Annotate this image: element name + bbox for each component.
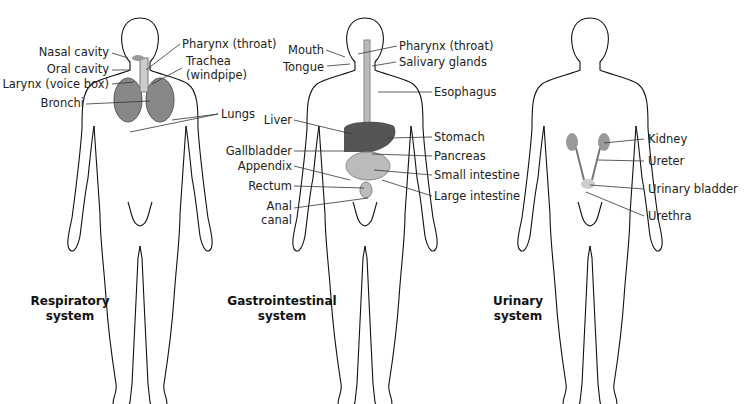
label-esophagus: Esophagus: [434, 86, 497, 99]
label-mouth: Mouth: [288, 44, 324, 57]
label-large-intestine: Large intestine: [434, 190, 520, 203]
title-line: Gastrointestinal: [222, 294, 342, 309]
title-urinary: Urinary system: [488, 294, 548, 324]
label-gallbladder: Gallbladder: [226, 145, 292, 158]
label-tongue: Tongue: [283, 61, 324, 74]
label-liver: Liver: [264, 114, 292, 127]
title-line: system: [20, 309, 120, 324]
label-pharynx-gi: Pharynx (throat): [399, 40, 493, 53]
label-appendix: Appendix: [238, 160, 292, 173]
label-stomach: Stomach: [434, 131, 485, 144]
label-bronchi: Bronchi: [41, 97, 85, 110]
label-pancreas: Pancreas: [434, 150, 486, 163]
title-line: system: [222, 309, 342, 324]
label-windpipe: (windpipe): [186, 69, 247, 82]
label-ureter: Ureter: [648, 155, 684, 168]
label-nasal-cavity: Nasal cavity: [39, 46, 109, 59]
label-salivary: Salivary glands: [399, 56, 487, 69]
label-larynx: Larynx (voice box): [2, 78, 109, 91]
label-oral-cavity: Oral cavity: [47, 63, 109, 76]
label-kidney: Kidney: [648, 133, 687, 146]
label-lungs: Lungs: [221, 108, 255, 121]
label-urethra: Urethra: [648, 210, 692, 223]
label-trachea: Trachea: [186, 55, 231, 68]
label-anal: Anal: [267, 200, 292, 213]
label-small-intestine: Small intestine: [434, 169, 520, 182]
title-line: Urinary: [488, 294, 548, 309]
label-canal: canal: [261, 214, 292, 227]
label-urinary-bladder: Urinary bladder: [648, 183, 738, 196]
body-outlines: [0, 0, 754, 404]
title-line: system: [488, 309, 548, 324]
title-gastrointestinal: Gastrointestinal system: [222, 294, 342, 324]
title-respiratory: Respiratory system: [20, 294, 120, 324]
label-pharynx-resp: Pharynx (throat): [182, 38, 276, 51]
title-line: Respiratory: [20, 294, 120, 309]
label-rectum: Rectum: [248, 180, 292, 193]
